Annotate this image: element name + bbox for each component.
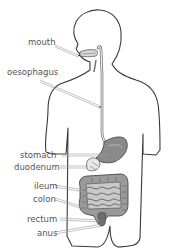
label-rectum: rectum <box>27 215 57 224</box>
body-outline-drawing <box>0 0 170 251</box>
duodenum-organ <box>87 158 101 171</box>
rectum-organ <box>98 213 106 226</box>
label-mouth: mouth <box>28 38 56 47</box>
label-oesophagus: oesophagus <box>7 68 58 77</box>
label-duodenum: duodenum <box>14 163 60 172</box>
ileum-organ <box>86 182 121 209</box>
label-colon: colon <box>33 195 56 204</box>
label-anus: anus <box>37 229 57 238</box>
label-ileum: ileum <box>34 182 58 191</box>
digestive-system-diagram: mouth oesophagus stomach duodenum ileum … <box>0 0 170 251</box>
label-stomach: stomach <box>20 151 57 160</box>
